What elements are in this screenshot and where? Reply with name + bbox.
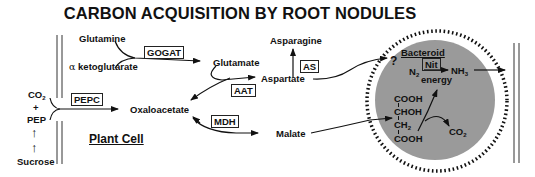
- aspartate-transport-arrow: [313, 58, 387, 79]
- label-unknown: ?: [390, 55, 397, 67]
- label-malate: Malate: [276, 129, 306, 139]
- label-co2-output: CO2: [449, 127, 467, 138]
- enzyme-as: AS: [300, 60, 319, 73]
- label-plus: +: [33, 103, 39, 113]
- diagram-canvas: CARBON ACQUISITION BY ROOT NODULES Gluta…: [0, 0, 535, 177]
- enzyme-mdh: MDH: [211, 115, 239, 128]
- enzyme-nit: Nit: [422, 58, 441, 71]
- label-sucrose: Sucrose: [17, 157, 55, 167]
- label-pep: PEP: [27, 115, 46, 125]
- region-plant-cell: Plant Cell: [89, 133, 144, 145]
- enzyme-gogat: GOGAT: [144, 46, 184, 59]
- label-nh3: NH3: [451, 66, 468, 77]
- region-bacteroid: Bacteroid: [401, 48, 445, 58]
- aat-arrow: [211, 66, 255, 80]
- struct-ch2: CH2: [394, 120, 411, 131]
- alpha-symbol: α: [69, 61, 75, 72]
- plant-membrane-left: [57, 35, 62, 164]
- label-glutamine: Glutamine: [79, 34, 125, 44]
- aat-oxaloacetate-arrow: [191, 78, 230, 100]
- struct-cooh-bottom: COOH: [394, 134, 423, 144]
- plant-membrane-right: [514, 43, 519, 163]
- label-n2: N2: [409, 67, 419, 78]
- diagram-title: CARBON ACQUISITION BY ROOT NODULES: [0, 4, 480, 23]
- diagram-graphics: [0, 0, 535, 177]
- enzyme-aat: AAT: [231, 84, 256, 97]
- label-energy: energy: [421, 75, 452, 85]
- label-alpha-ketoglutarate: α ketoglutarate: [69, 62, 138, 72]
- label-aspartate: Aspartate: [261, 74, 305, 84]
- label-asparagine: Asparagine: [270, 36, 322, 46]
- label-co2-input: CO2: [28, 90, 46, 101]
- label-oxaloacetate: Oxaloacetate: [130, 105, 189, 115]
- label-glutamate: Glutamate: [213, 58, 259, 68]
- enzyme-pepc: PEPC: [71, 93, 103, 106]
- up-arrow-icon: ↑: [31, 141, 38, 154]
- up-arrow-icon: ↑: [31, 126, 38, 139]
